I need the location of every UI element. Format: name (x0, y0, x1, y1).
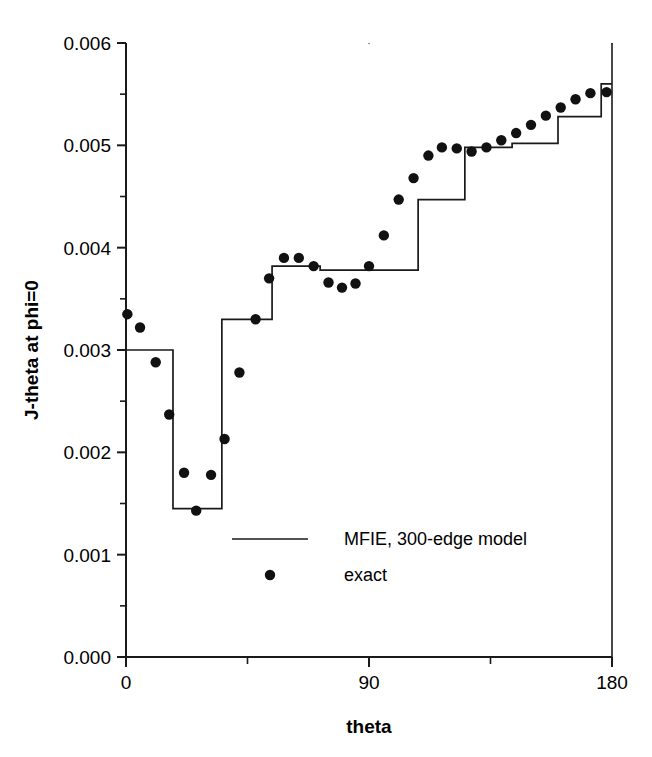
data-point (379, 230, 389, 240)
data-point (164, 409, 174, 419)
y-tick-label: 0.006 (63, 33, 111, 54)
chart-figure: 0.0000.0010.0020.0030.0040.0050.00609018… (0, 0, 652, 757)
y-tick-label: 0.000 (63, 647, 111, 668)
data-point (350, 278, 360, 288)
data-point (206, 470, 216, 480)
data-point (219, 434, 229, 444)
data-point (250, 314, 260, 324)
data-point (151, 357, 161, 367)
data-point (234, 367, 244, 377)
data-point (294, 253, 304, 263)
data-point (585, 88, 595, 98)
legend-label: exact (344, 565, 387, 585)
x-axis: 090180 (121, 43, 628, 693)
data-point (570, 94, 580, 104)
x-tick-label: 0 (121, 672, 132, 693)
data-point (191, 505, 201, 515)
data-point (423, 150, 433, 160)
data-point (601, 87, 611, 97)
data-point (308, 261, 318, 271)
data-point (264, 273, 274, 283)
y-tick-label: 0.001 (63, 545, 111, 566)
legend-label: MFIE, 300-edge model (344, 529, 527, 549)
data-point (556, 102, 566, 112)
chart-canvas: 0.0000.0010.0020.0030.0040.0050.00609018… (0, 0, 652, 757)
series-exact-points (122, 87, 612, 516)
data-point (452, 143, 462, 153)
y-axis: 0.0000.0010.0020.0030.0040.0050.006 (63, 33, 126, 668)
data-point (481, 142, 491, 152)
y-tick-label: 0.002 (63, 442, 111, 463)
data-point (408, 173, 418, 183)
data-point (466, 146, 476, 156)
y-tick-label: 0.005 (63, 135, 111, 156)
series-mfie-step-line (126, 84, 612, 509)
data-point (496, 135, 506, 145)
x-tick-label: 90 (358, 672, 379, 693)
x-tick-label: 180 (596, 672, 628, 693)
y-axis-title: J-theta at phi=0 (21, 280, 42, 420)
data-point (437, 142, 447, 152)
legend-dot-swatch (265, 570, 275, 580)
y-tick-label: 0.004 (63, 238, 111, 259)
data-point (541, 110, 551, 120)
y-tick-label: 0.003 (63, 340, 111, 361)
x-axis-title: theta (346, 716, 392, 737)
data-point (337, 282, 347, 292)
data-point (394, 194, 404, 204)
data-point (179, 468, 189, 478)
data-point (122, 309, 132, 319)
data-point (323, 277, 333, 287)
data-point (279, 253, 289, 263)
data-point (364, 261, 374, 271)
data-point (511, 128, 521, 138)
legend: MFIE, 300-edge modelexact (232, 529, 527, 585)
data-point (135, 322, 145, 332)
data-point (526, 120, 536, 130)
